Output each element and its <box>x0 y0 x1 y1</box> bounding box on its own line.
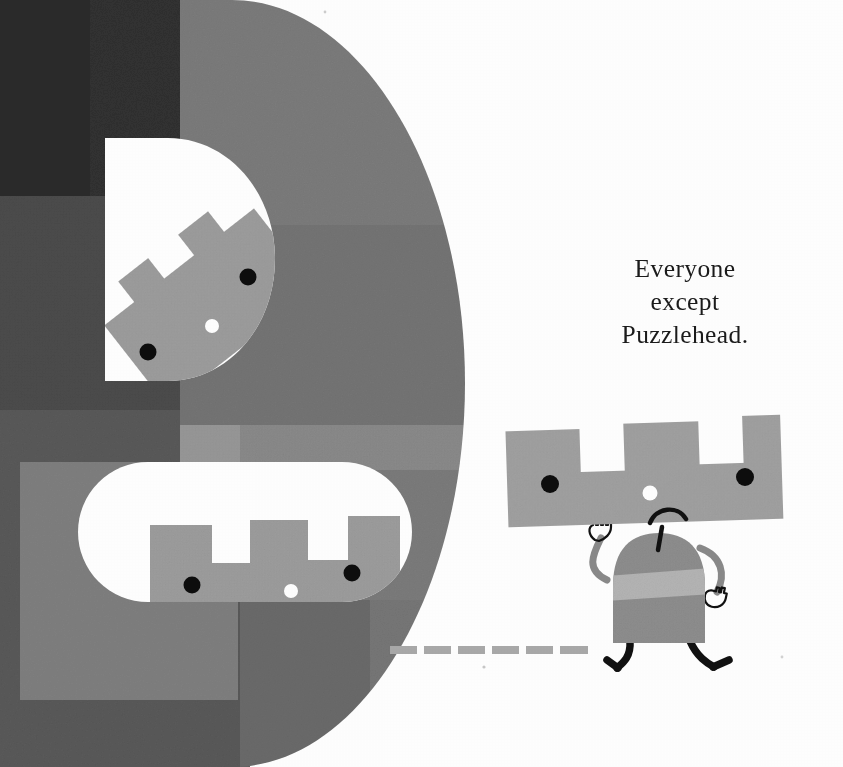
pill-castle-crenellation <box>150 516 400 610</box>
left-arm <box>593 538 607 580</box>
semicircle-castle-nose <box>205 319 219 333</box>
stray-print-mark-1 <box>482 665 485 668</box>
left-leg <box>617 641 630 668</box>
d-band-left-darkest <box>0 0 90 196</box>
left-foot <box>607 660 618 668</box>
pill-castle-right-eye <box>344 565 361 582</box>
trail-dash-5 <box>526 646 553 654</box>
pill-window-group <box>78 462 412 610</box>
right-eye <box>736 468 754 486</box>
left-eye <box>541 475 559 493</box>
picture-book-illustration <box>0 0 843 767</box>
trail-dash-2 <box>424 646 451 654</box>
stray-print-mark-2 <box>324 11 327 14</box>
semicircle-castle-right-eye <box>240 269 257 286</box>
nose-dot <box>643 486 658 501</box>
d-band-lower-right <box>240 600 465 767</box>
d-band-right-lower-tone <box>370 600 465 720</box>
trail-dash-1 <box>390 646 417 654</box>
stray-print-mark-3 <box>781 656 784 659</box>
illustration-page: Everyone except Puzzlehead. <box>0 0 843 767</box>
puzzlehead-character <box>505 415 783 668</box>
dashed-trail <box>390 646 588 654</box>
trail-dash-6 <box>560 646 588 654</box>
right-leg <box>690 641 714 667</box>
pill-castle-nose <box>284 584 298 598</box>
castle-face-in-pill <box>150 516 400 610</box>
trail-dash-4 <box>492 646 519 654</box>
trail-dash-3 <box>458 646 485 654</box>
right-foot <box>713 660 729 667</box>
pill-castle-left-eye <box>184 577 201 594</box>
semicircle-castle-left-eye <box>140 344 157 361</box>
caption-text: Everyone except Puzzlehead. <box>560 252 810 351</box>
